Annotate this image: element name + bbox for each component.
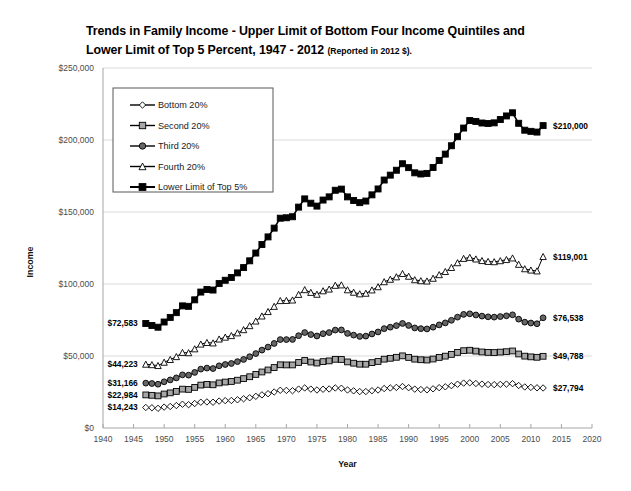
series-marker: [540, 253, 546, 259]
series-marker: [400, 321, 406, 327]
series-marker: [522, 127, 528, 133]
series-marker: [381, 356, 387, 362]
series-marker: [393, 274, 399, 280]
series-marker: [161, 379, 167, 385]
series-marker: [161, 391, 167, 397]
series-marker: [302, 385, 308, 391]
series-marker: [173, 389, 179, 395]
series-marker: [149, 392, 155, 398]
series-marker: [155, 405, 161, 411]
start-value-label: $31,166: [108, 378, 139, 388]
series-marker: [473, 348, 479, 354]
series-marker: [234, 397, 240, 403]
start-value-label: $14,243: [108, 402, 139, 412]
series-marker: [381, 326, 387, 332]
series-marker: [308, 359, 314, 365]
x-axis-tick-label: 2005: [491, 434, 510, 444]
series-marker: [235, 359, 241, 365]
series-marker: [198, 366, 204, 372]
series-marker: [253, 393, 259, 399]
x-axis-tick-label: 2010: [521, 434, 540, 444]
series-marker: [228, 397, 234, 403]
series-marker: [504, 313, 510, 319]
series-marker: [357, 200, 363, 206]
series-marker: [510, 348, 516, 354]
series-marker: [185, 401, 191, 407]
series-marker: [302, 358, 308, 364]
legend-item-label: Fourth 20%: [158, 162, 205, 172]
series-marker: [424, 326, 430, 332]
series-marker: [430, 324, 436, 330]
series-marker: [173, 375, 179, 381]
series-marker: [228, 361, 234, 367]
series-marker: [448, 382, 454, 388]
series-marker: [259, 242, 265, 248]
series-marker: [338, 385, 344, 391]
chart-figure: Trends in Family Income - Upper Limit of…: [0, 0, 631, 491]
series-marker: [522, 353, 528, 359]
series-marker: [400, 161, 406, 167]
series-marker: [302, 287, 308, 293]
series-marker: [216, 380, 222, 386]
series-marker: [381, 279, 387, 285]
series-marker: [430, 356, 436, 362]
series-marker: [454, 260, 460, 266]
series-marker: [491, 350, 497, 356]
series-marker: [344, 387, 350, 393]
series-marker: [369, 388, 375, 394]
x-axis-tick-label: 2015: [552, 434, 571, 444]
series-marker: [540, 353, 546, 359]
series-marker: [277, 362, 283, 368]
series-marker: [345, 359, 351, 365]
series-marker: [504, 349, 510, 355]
series-marker: [479, 381, 485, 387]
series-marker: [497, 314, 503, 320]
series-marker: [387, 355, 393, 361]
series-marker: [357, 334, 363, 340]
series-marker: [479, 349, 485, 355]
series-marker: [259, 347, 265, 353]
series-marker: [216, 336, 222, 342]
end-value-label: $49,788: [553, 351, 584, 361]
series-marker: [149, 381, 155, 387]
series-marker: [240, 327, 246, 333]
series-marker: [283, 387, 289, 393]
series-marker: [436, 355, 442, 361]
series-marker: [405, 384, 411, 390]
series-marker: [204, 399, 210, 405]
series-marker: [491, 314, 497, 320]
series-marker: [430, 386, 436, 392]
series-marker: [326, 358, 332, 364]
series-marker: [240, 396, 246, 402]
series-marker: [345, 194, 351, 200]
series-marker: [241, 265, 247, 271]
series-marker: [332, 356, 338, 362]
series-marker: [204, 365, 210, 371]
series-marker: [289, 388, 295, 394]
series-marker: [271, 389, 277, 395]
series-marker: [387, 324, 393, 330]
series-marker: [308, 289, 314, 295]
series-marker: [394, 354, 400, 360]
series-marker: [509, 255, 515, 261]
series-marker: [295, 386, 301, 392]
y-axis-title: Income: [25, 247, 35, 278]
series-marker: [351, 360, 357, 366]
series-marker: [418, 171, 424, 177]
series-marker: [473, 118, 479, 124]
series-marker: [259, 313, 265, 319]
series-marker: [283, 362, 289, 368]
series-marker: [173, 310, 179, 316]
series-marker: [143, 404, 149, 410]
series-marker: [412, 386, 418, 392]
series-marker: [198, 399, 204, 405]
series-marker: [375, 359, 381, 365]
series-marker: [155, 324, 161, 330]
series-marker: [515, 382, 521, 388]
series-marker: [534, 354, 540, 360]
series-marker: [497, 381, 503, 387]
series-marker: [442, 384, 448, 390]
series-marker: [485, 314, 491, 320]
series-marker: [534, 321, 540, 327]
series-marker: [296, 360, 302, 366]
